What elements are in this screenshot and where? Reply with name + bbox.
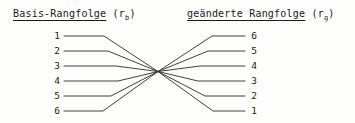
- connector-line-6-to-1: [64, 72, 245, 112]
- right-rank-2: 5: [249, 46, 259, 56]
- right-rank-1: 6: [249, 31, 259, 41]
- right-rank-3: 4: [249, 61, 259, 71]
- connector-line-2-to-5: [64, 51, 245, 72]
- right-rank-5: 2: [249, 91, 259, 101]
- left-rank-5: 5: [52, 91, 62, 101]
- right-rank-6: 1: [249, 106, 259, 116]
- right-rank-4: 3: [249, 76, 259, 86]
- connector-line-5-to-2: [64, 72, 245, 97]
- left-rank-2: 2: [52, 46, 62, 56]
- left-rank-4: 4: [52, 76, 62, 86]
- left-rank-1: 1: [52, 31, 62, 41]
- left-rank-3: 3: [52, 61, 62, 71]
- rank-reversal-diagram: Basis-Rangfolge (rb) geänderte Rangfolge…: [0, 0, 355, 123]
- left-rank-6: 6: [52, 106, 62, 116]
